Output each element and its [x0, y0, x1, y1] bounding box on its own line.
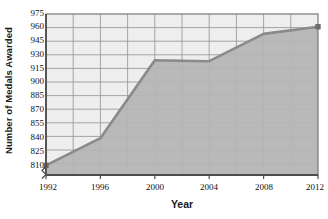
x-tick-label: 2008	[244, 182, 284, 192]
medals-awarded-line-chart: Number of Medals Awarded 975 960 945 930…	[0, 0, 328, 219]
x-axis-tick-labels: 1992 1996 2000 2004 2008 2012	[0, 0, 328, 219]
x-tick-label: 1996	[80, 182, 120, 192]
x-tick-label: 2004	[189, 182, 229, 192]
x-axis-title: Year	[46, 198, 318, 210]
x-tick-label: 2012	[295, 182, 328, 192]
x-tick-label: 2000	[135, 182, 175, 192]
x-tick-label: 1992	[28, 182, 68, 192]
